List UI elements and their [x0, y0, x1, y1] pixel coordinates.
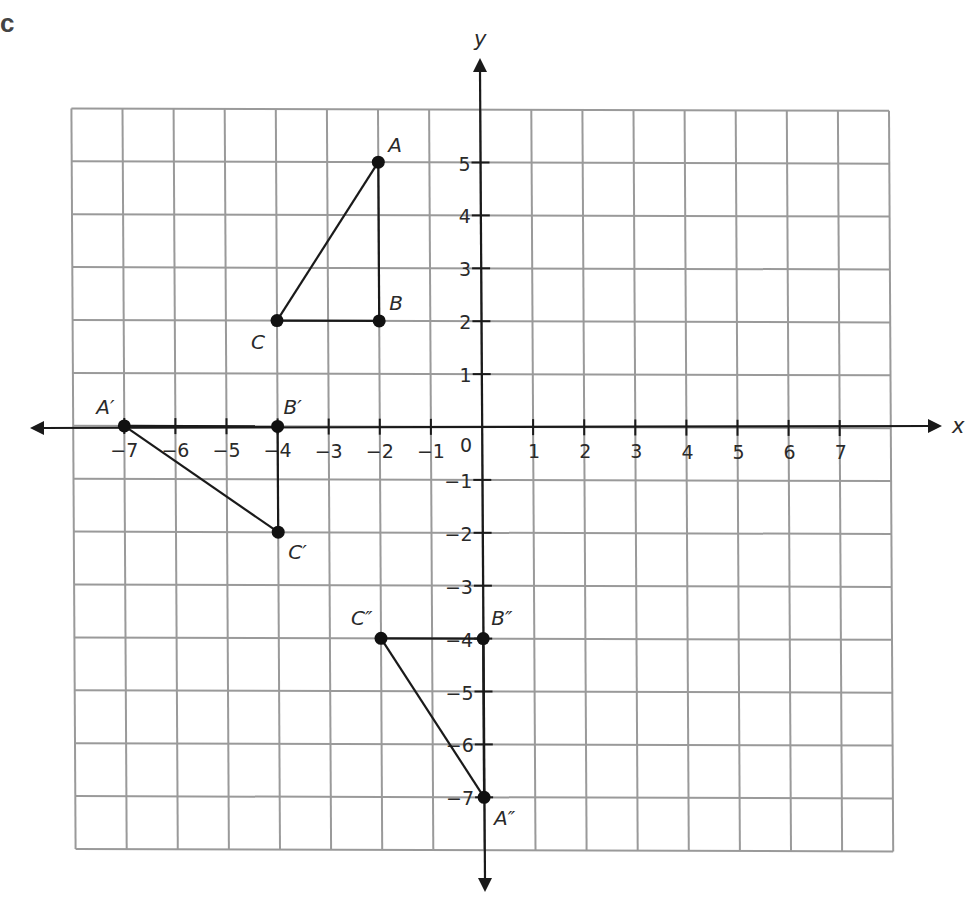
vertex-label: C′ [288, 540, 307, 564]
triangle-edge [378, 162, 379, 321]
origin-label: 0 [460, 434, 472, 456]
x-tick-label: −1 [417, 440, 445, 462]
vertex-point-icon [477, 632, 490, 645]
x-tick-label: 3 [630, 440, 642, 462]
y-tick-label: 3 [459, 258, 471, 280]
x-axis-right-arrow-icon [928, 419, 942, 433]
x-tick-label: −6 [161, 439, 189, 461]
vertex-point-icon [271, 420, 284, 433]
y-tick-label: −2 [445, 523, 473, 545]
y-tick-label: −1 [444, 470, 472, 492]
vertex-point-icon [271, 314, 284, 327]
triangle-edge [483, 639, 484, 798]
x-tick-label: −7 [110, 439, 138, 461]
x-tick-label: −2 [366, 440, 394, 462]
y-axis-label: y [473, 27, 487, 51]
x-axis-label: x [951, 414, 965, 438]
y-tick-label: −7 [446, 787, 474, 809]
triangle-edge [278, 426, 279, 532]
x-tick-label: −5 [213, 439, 241, 461]
vertex-label: A″ [492, 806, 516, 830]
vertex-point-icon [372, 156, 385, 169]
x-tick-label: 7 [835, 441, 847, 463]
vertex-point-icon [118, 419, 131, 432]
vertex-label: B′ [284, 395, 303, 419]
vertex-point-icon [478, 791, 491, 804]
x-tick-label: 4 [681, 441, 693, 463]
x-tick-label: −3 [315, 440, 343, 462]
vertex-label: B [389, 291, 403, 315]
y-axis-down-arrow-icon [478, 878, 492, 892]
y-tick-label: 4 [459, 205, 471, 227]
y-tick-label: 5 [458, 153, 470, 175]
x-tick-label: 1 [528, 440, 540, 462]
y-tick-label: −5 [445, 682, 473, 704]
vertex-label: A [386, 133, 402, 157]
x-tick-label: 2 [579, 440, 591, 462]
vertex-label: C [251, 330, 265, 354]
vertex-label: A′ [94, 395, 115, 419]
coordinate-plane: xy −7−6−5−4−3−2−1123456754321−1−2−3−4−5−… [0, 0, 980, 903]
y-tick-label: 1 [460, 364, 472, 386]
vertex-label: C″ [351, 606, 373, 630]
vertex-label: B″ [491, 606, 513, 630]
x-tick-label: 5 [733, 441, 745, 463]
y-tick-label: 2 [459, 311, 471, 333]
vertex-point-icon [373, 314, 386, 327]
vertex-point-icon [272, 526, 285, 539]
y-tick-label: −3 [445, 576, 473, 598]
y-axis-up-arrow-icon [473, 58, 487, 72]
vertex-point-icon [375, 632, 388, 645]
x-tick-label: 6 [784, 441, 796, 463]
x-axis-left-arrow-icon [30, 421, 44, 435]
